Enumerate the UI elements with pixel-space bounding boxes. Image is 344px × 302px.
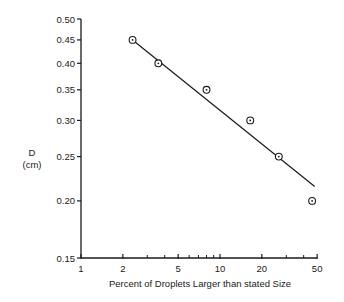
data-point (247, 117, 254, 124)
y-tick-label: 0.35 (57, 84, 76, 95)
y-tick-label: 0.25 (57, 151, 76, 162)
y-tick-label: 0.30 (57, 115, 76, 126)
y-tick-label: 0.20 (57, 195, 76, 206)
chart: 0.150.200.250.300.350.400.450.50 1251020… (0, 0, 344, 302)
x-tick-label: 10 (215, 263, 226, 274)
y-axis-label: D (29, 147, 36, 158)
y-tick-label: 0.45 (57, 34, 76, 45)
axes (81, 19, 317, 258)
x-tick-label: 50 (312, 263, 323, 274)
data-point (155, 60, 162, 67)
y-axis-unit: (cm) (23, 159, 42, 170)
data-point (129, 37, 136, 44)
data-point (203, 86, 210, 93)
y-axis-ticks: 0.150.200.250.300.350.400.450.50 (57, 14, 82, 264)
data-point (275, 153, 282, 160)
x-tick-label: 2 (120, 263, 125, 274)
x-axis-ticks: 125102050 (78, 254, 322, 274)
y-tick-label: 0.40 (57, 58, 76, 69)
x-tick-label: 20 (257, 263, 268, 274)
data-series (129, 37, 315, 205)
x-axis-label: Percent of Droplets Larger than stated S… (109, 278, 291, 289)
x-tick-label: 1 (78, 263, 83, 274)
y-tick-label: 0.15 (57, 253, 76, 264)
y-tick-label: 0.50 (57, 14, 76, 25)
x-tick-label: 5 (176, 263, 181, 274)
data-point (309, 197, 316, 204)
